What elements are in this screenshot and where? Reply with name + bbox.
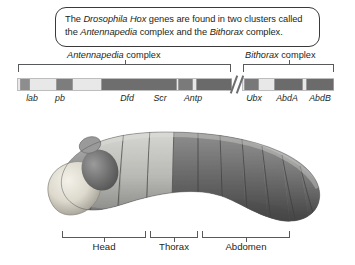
gene-label-antp: Antp [184, 93, 202, 103]
bracket-tick [289, 60, 290, 65]
gene-block-dfd [101, 79, 176, 90]
bithorax-complex-bracket [243, 64, 334, 72]
region-label-abdomen: Abdomen [225, 241, 266, 252]
drosophila-larva-illustration [38, 108, 338, 226]
gene-boundary [56, 79, 57, 90]
antennapedia-complex-title: Antennapedia complex [67, 50, 160, 60]
caption-line1-mid: genes are found in two clusters called [146, 14, 302, 24]
gene-label-abdb: AbdB [309, 93, 331, 103]
region-label-head: Head [93, 241, 116, 252]
caption-line2-italic2: Bithorax [210, 27, 244, 37]
bithorax-italic: Bithorax [245, 50, 279, 60]
caption-line2-mid: complex and the [137, 27, 210, 37]
bithorax-complex-title: Bithorax complex [245, 50, 315, 60]
gene-boundary [302, 79, 303, 90]
caption-text: The Drosophila Hox genes are found in tw… [65, 13, 313, 39]
caption-line2-pre: the [65, 27, 80, 37]
bracket-tick [125, 60, 126, 65]
gene-block-ubx [244, 79, 258, 90]
gene-boundary [274, 79, 275, 90]
region-label-thorax: Thorax [159, 241, 189, 252]
hox-gene-figure: The Drosophila Hox genes are found in tw… [0, 0, 355, 265]
gene-boundary [192, 79, 193, 90]
bithorax-gene-bar [242, 78, 334, 91]
larva-segment [172, 128, 198, 224]
gene-label-lab: lab [26, 93, 38, 103]
antennapedia-gene-bar [17, 78, 232, 91]
gene-label-pb: pb [55, 93, 65, 103]
caption-line1-pre: The [65, 14, 83, 24]
gene-boundary [258, 79, 259, 90]
gene-block-antp [196, 79, 231, 90]
larva-segment [146, 128, 174, 224]
gene-label-scr: Scr [153, 93, 166, 103]
gene-block-scr [178, 79, 192, 90]
gene-boundary [72, 79, 73, 90]
gene-block-pb [56, 79, 72, 90]
antennapedia-suffix: complex [124, 50, 161, 60]
gene-block-abda [274, 79, 302, 90]
larva-segment [220, 134, 246, 224]
caption-box: The Drosophila Hox genes are found in tw… [55, 7, 320, 47]
thorax-region-bracket [150, 231, 198, 238]
antennapedia-complex-bracket [18, 64, 231, 72]
gene-boundary [196, 79, 197, 90]
head-region-bracket [62, 231, 146, 238]
gene-boundary [178, 79, 179, 90]
abdomen-region-bracket [202, 231, 290, 238]
bithorax-suffix: complex [279, 50, 316, 60]
caption-line2-italic1: Antennapedia [80, 27, 137, 37]
gene-block-abdb [306, 79, 333, 90]
gene-boundary [29, 79, 30, 90]
gene-boundary [244, 79, 245, 90]
gene-boundary [20, 79, 21, 90]
antennapedia-italic: Antennapedia [67, 50, 124, 60]
larva-segment [198, 130, 222, 224]
gene-boundary [306, 79, 307, 90]
gene-boundary [333, 79, 334, 90]
gene-boundary [101, 79, 102, 90]
gene-block-lab [20, 79, 29, 90]
caption-line1-italic: Drosophila Hox [83, 14, 146, 24]
caption-line2-post: complex. [243, 27, 282, 37]
gene-label-abda: AbdA [276, 93, 298, 103]
gene-label-ubx: Ubx [246, 93, 262, 103]
gene-boundary [176, 79, 177, 90]
gene-label-dfd: Dfd [120, 93, 134, 103]
